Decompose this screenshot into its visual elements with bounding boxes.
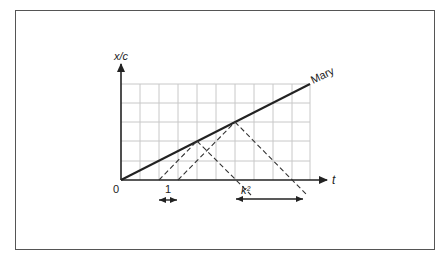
y-axis-label: x/c <box>113 50 129 62</box>
interval-1-label: 1 <box>165 183 171 195</box>
spacetime-diagram: x/c t 0 1 k² Mary <box>0 0 445 260</box>
worldline-label: Mary <box>309 64 337 86</box>
x-axis-label: t <box>332 173 336 187</box>
interval-k2-label: k² <box>241 184 251 196</box>
origin-label: 0 <box>113 183 119 195</box>
light-signals <box>159 122 306 195</box>
